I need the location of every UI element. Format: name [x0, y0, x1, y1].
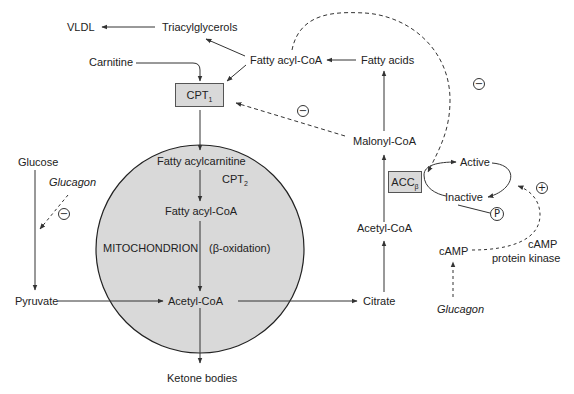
- inhibit-sign-malonyl-cpt1: −: [297, 105, 309, 117]
- label-glucagon-right: Glucagon: [437, 303, 484, 316]
- label-glucagon-left: Glucagon: [49, 176, 96, 189]
- label-inactive: Inactive: [445, 191, 483, 204]
- inhibit-sign-glycolysis: −: [58, 208, 70, 220]
- cpt2-subscript: 2: [244, 180, 248, 187]
- arrow-facoa-inhibit-acc: [292, 13, 450, 172]
- arrow-facoa-to-cpt1: [227, 65, 246, 81]
- arc-acc-inactive: [424, 175, 446, 196]
- acc-beta-box: ACCβ: [388, 171, 422, 193]
- inhibit-sign-facoa-acc: −: [473, 78, 485, 90]
- label-vldl: VLDL: [67, 21, 95, 34]
- label-beta-oxidation: (β-oxidation): [209, 242, 270, 255]
- label-camp: cAMP: [439, 245, 468, 258]
- label-ketone-bodies: Ketone bodies: [167, 372, 237, 385]
- label-active: Active: [460, 156, 490, 169]
- label-camp-pk-line2: protein kinase: [492, 252, 561, 265]
- label-fatty-acids: Fatty acids: [361, 54, 414, 67]
- phosphate-link: [458, 205, 490, 213]
- cpt1-label: CPT: [187, 89, 209, 101]
- cpt1-box: CPT1: [175, 83, 224, 107]
- acc-label: ACC: [391, 176, 414, 188]
- label-mitochondrion: MITOCHONDRION: [103, 242, 198, 255]
- label-malonyl-coa: Malonyl-CoA: [353, 135, 416, 148]
- arrow-carnitine-to-cpt1: [136, 63, 200, 81]
- label-glucose: Glucose: [18, 156, 58, 169]
- arrow-active-to-inactive: [488, 163, 511, 197]
- label-cpt2: CPT2: [222, 173, 248, 190]
- label-fatty-acyl-coa-mito: Fatty acyl-CoA: [165, 205, 237, 218]
- cpt2-label: CPT: [222, 173, 244, 185]
- label-camp-pk-line1: cAMP: [528, 238, 557, 251]
- label-acetyl-coa-mito: Acetyl-CoA: [168, 295, 223, 308]
- arrow-facoa-to-tag: [206, 39, 245, 56]
- label-fatty-acyl-coa-top: Fatty acyl-CoA: [250, 54, 322, 67]
- label-pyruvate: Pyruvate: [15, 295, 58, 308]
- arrow-malonyl-inhibit-cpt1: [236, 103, 345, 136]
- activate-sign-pk: +: [536, 182, 548, 194]
- acc-subscript: β: [415, 183, 419, 190]
- label-fatty-acylcarnitine: Fatty acylcarnitine: [157, 155, 246, 168]
- arrow-inactive-to-active: [424, 162, 456, 175]
- label-carnitine: Carnitine: [89, 56, 133, 69]
- phosphate-circle: P: [490, 207, 504, 221]
- label-acetyl-coa-cyto: Acetyl-CoA: [357, 222, 412, 235]
- cpt1-subscript: 1: [209, 96, 213, 103]
- label-triacylglycerols: Triacylglycerols: [162, 21, 237, 34]
- label-citrate: Citrate: [363, 295, 395, 308]
